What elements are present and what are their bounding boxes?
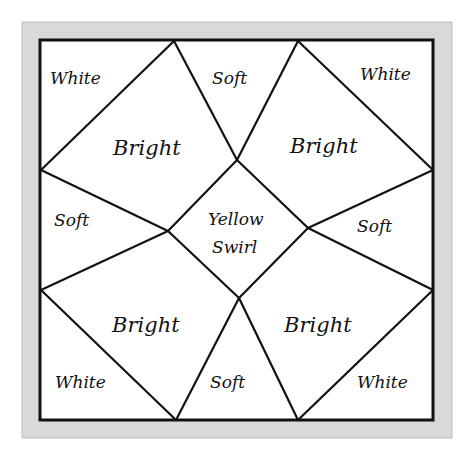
- label-soft-top: Soft: [212, 68, 247, 88]
- label-white-top-right: White: [360, 64, 411, 84]
- quilt-block-diagram: White Soft White Bright Bright Soft Yell…: [0, 0, 465, 450]
- label-soft-left: Soft: [54, 210, 89, 230]
- label-bright-top-right: Bright: [289, 134, 358, 158]
- label-bright-bottom-right: Bright: [283, 313, 352, 337]
- label-bright-bottom-left: Bright: [111, 313, 180, 337]
- label-bright-top-left: Bright: [112, 136, 181, 160]
- label-white-top-left: White: [50, 68, 101, 88]
- label-white-bottom-left: White: [55, 372, 106, 392]
- label-soft-bottom: Soft: [210, 372, 245, 392]
- label-soft-right: Soft: [357, 216, 392, 236]
- label-white-bottom-right: White: [357, 372, 408, 392]
- label-yellow: Yellow: [208, 209, 264, 229]
- label-swirl: Swirl: [212, 237, 257, 257]
